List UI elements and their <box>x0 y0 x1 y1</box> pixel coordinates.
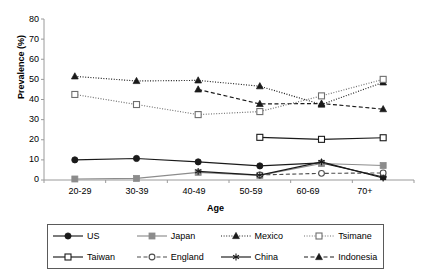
data-point-marker-mexico <box>71 73 78 79</box>
legend-swatch-england <box>136 251 168 263</box>
x-tick-label-70plus: 70+ <box>335 186 395 196</box>
data-point-marker-indonesia <box>195 86 202 92</box>
series-line-indonesia <box>198 89 383 109</box>
chart-legend: US Japan Mexico Tsimane Taiwan England <box>47 224 384 269</box>
legend-item-us: US <box>48 225 132 247</box>
legend-label-indonesia: Indonesia <box>338 252 377 262</box>
data-point-marker-england <box>149 254 155 260</box>
legend-swatch-indonesia <box>303 251 335 263</box>
data-point-marker-taiwan <box>65 254 71 260</box>
x-axis-title: Age <box>0 203 431 213</box>
data-point-marker-tsimane <box>380 76 386 82</box>
data-point-marker-japan <box>134 175 140 181</box>
data-point-marker-mexico <box>232 232 239 238</box>
x-tick-label-50-59: 50-59 <box>221 186 281 196</box>
series-taiwan <box>257 134 386 142</box>
series-tsimane <box>72 76 386 117</box>
axis-lines <box>41 19 414 183</box>
data-point-marker-taiwan <box>319 136 325 142</box>
prevalence-by-age-line-chart: Prevalence (%) 80 70 60 50 40 30 20 10 0… <box>0 0 431 278</box>
data-point-marker-us <box>72 157 78 163</box>
x-tick-label-20-29: 20-29 <box>50 186 110 196</box>
legend-item-japan: Japan <box>132 225 216 247</box>
data-point-marker-japan <box>72 176 78 182</box>
data-point-marker-tsimane <box>319 93 325 99</box>
legend-swatch-tsimane <box>303 230 335 242</box>
data-point-marker-taiwan <box>380 135 386 141</box>
data-point-marker-japan <box>380 163 386 169</box>
x-tick-label-60-69: 60-69 <box>278 186 338 196</box>
legend-item-tsimane: Tsimane <box>299 225 383 247</box>
data-point-marker-tsimane <box>316 233 322 239</box>
legend-item-indonesia: Indonesia <box>299 247 383 269</box>
series-us <box>72 155 387 180</box>
data-point-marker-us <box>133 155 139 161</box>
series-indonesia <box>195 86 387 112</box>
data-point-marker-tsimane <box>257 109 263 115</box>
data-point-marker-tsimane <box>195 112 201 118</box>
legend-label-china: China <box>255 252 279 262</box>
x-tick-label-40-49: 40-49 <box>164 186 224 196</box>
legend-label-taiwan: Taiwan <box>87 252 115 262</box>
data-point-marker-england <box>319 170 325 176</box>
legend-swatch-mexico <box>220 230 252 242</box>
legend-label-tsimane: Tsimane <box>338 231 372 241</box>
data-point-marker-japan <box>149 233 155 239</box>
legend-item-china: China <box>216 247 300 269</box>
data-point-marker-indonesia <box>316 254 323 260</box>
legend-swatch-china <box>220 251 252 263</box>
legend-label-england: England <box>171 252 204 262</box>
legend-swatch-japan <box>136 230 168 242</box>
legend-item-mexico: Mexico <box>216 225 300 247</box>
data-point-marker-tsimane <box>134 102 140 108</box>
legend-label-mexico: Mexico <box>255 231 284 241</box>
data-point-marker-taiwan <box>257 134 263 140</box>
data-point-marker-mexico <box>133 77 140 83</box>
data-point-marker-indonesia <box>318 100 325 106</box>
data-point-marker-us <box>65 233 71 239</box>
legend-swatch-us <box>52 230 84 242</box>
legend-swatch-taiwan <box>52 251 84 263</box>
legend-label-japan: Japan <box>171 231 196 241</box>
series-line-mexico <box>75 76 383 104</box>
legend-item-taiwan: Taiwan <box>48 247 132 269</box>
data-point-marker-mexico <box>195 77 202 83</box>
data-point-marker-us <box>195 159 201 165</box>
legend-item-england: England <box>132 247 216 269</box>
series-line-tsimane <box>75 79 383 114</box>
x-tick-label-30-39: 30-39 <box>107 186 167 196</box>
data-point-marker-mexico <box>256 83 263 89</box>
data-point-marker-tsimane <box>72 91 78 97</box>
legend-label-us: US <box>87 231 100 241</box>
data-point-marker-us <box>257 163 263 169</box>
